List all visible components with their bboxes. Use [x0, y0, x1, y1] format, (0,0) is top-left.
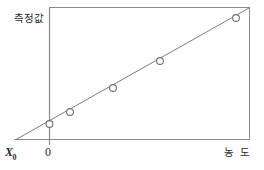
calibration-chart-figure: 측정값 농 도 X0 0	[0, 0, 264, 170]
x-intercept-symbol: X	[5, 145, 13, 159]
data-point	[233, 15, 240, 22]
data-point	[157, 58, 164, 65]
calibration-plot-svg	[0, 0, 264, 170]
fit-line	[16, 8, 249, 140]
data-point	[67, 109, 74, 116]
x-origin-tick-label: 0	[45, 146, 51, 158]
x-intercept-subscript: 0	[13, 153, 17, 162]
data-point	[110, 85, 117, 92]
data-point-markers	[46, 15, 239, 128]
x-axis-title: 농 도	[224, 147, 252, 158]
y-axis-title: 측정값	[14, 13, 44, 24]
data-point	[46, 121, 53, 128]
plot-frame-rect	[50, 8, 250, 140]
plot-frame	[50, 8, 250, 140]
x-intercept-tick-label: X0	[5, 146, 17, 161]
